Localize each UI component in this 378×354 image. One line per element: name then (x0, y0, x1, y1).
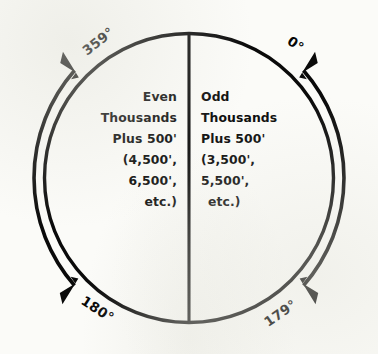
even-line-2: Thousands (101, 110, 177, 125)
odd-line-3: Plus 500' (201, 131, 265, 146)
odd-line-6: etc.) (208, 194, 241, 209)
even-line-1: Even (143, 89, 177, 104)
degree-label-0: 0° (285, 33, 308, 56)
odd-line-2: Thousands (201, 110, 277, 125)
even-hemisphere-text-block: Even Thousands Plus 500' (4,500', 6,500'… (101, 89, 177, 209)
right-arc-stroke (304, 71, 344, 286)
odd-line-5: 5,500', (201, 173, 249, 188)
circle-diagram-svg: Even Thousands Plus 500' (4,500', 6,500'… (0, 0, 378, 354)
even-line-5: 6,500', (129, 173, 177, 188)
degree-label-180: 180° (78, 292, 117, 325)
odd-line-4: (3,500', (201, 152, 255, 167)
even-line-4: (4,500', (123, 152, 177, 167)
even-line-3: Plus 500' (113, 131, 177, 146)
even-line-6: etc.) (144, 194, 177, 209)
odd-hemisphere-text-block: Odd Thousands Plus 500' (3,500', 5,500',… (201, 89, 277, 209)
odd-line-1: Odd (201, 89, 230, 104)
degree-label-359: 359° (79, 24, 117, 59)
left-arc-stroke (34, 71, 74, 286)
diagram-canvas: Even Thousands Plus 500' (4,500', 6,500'… (0, 0, 378, 354)
